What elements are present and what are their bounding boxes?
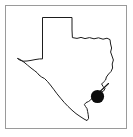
texas-map-svg — [0, 0, 133, 137]
location-marker-dot[interactable] — [91, 90, 104, 103]
map-figure: Texas state outline map Texas — [0, 0, 133, 137]
texas-state-outline — [17, 18, 113, 121]
